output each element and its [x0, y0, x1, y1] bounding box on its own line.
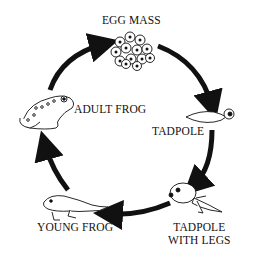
- arrow-legs-to-young: [108, 203, 170, 214]
- arrow-tadpole-to-legs: [194, 130, 212, 185]
- label-tadpole-with-legs-line2: WITH LEGS: [168, 234, 231, 247]
- young-frog-icon: [44, 196, 109, 220]
- frog-life-cycle-diagram: EGG MASS TADPOLE TADPOLE WITH LEGS YOUNG…: [0, 0, 253, 259]
- label-tadpole-with-legs-line1: TADPOLE: [168, 221, 231, 234]
- egg-mass-icon: [111, 32, 155, 71]
- label-tadpole: TADPOLE: [152, 125, 204, 138]
- adult-frog-icon: [20, 96, 74, 129]
- label-adult-frog: ADULT FROG: [74, 103, 146, 116]
- arrow-young-to-adult: [45, 145, 68, 190]
- arrow-egg-to-tadpole: [158, 46, 212, 106]
- tadpole-icon: [186, 109, 234, 122]
- arrow-adult-to-egg: [50, 44, 104, 90]
- label-tadpole-with-legs: TADPOLE WITH LEGS: [168, 221, 231, 247]
- label-egg-mass: EGG MASS: [102, 14, 161, 27]
- label-young-frog: YOUNG FROG: [37, 221, 113, 234]
- tadpole-with-legs-icon: [169, 183, 222, 213]
